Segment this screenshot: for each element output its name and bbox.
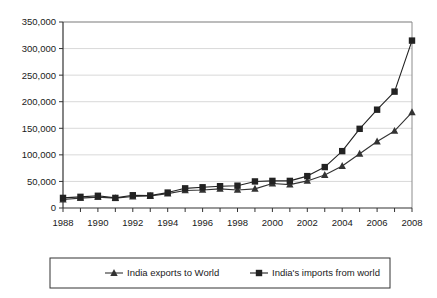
y-axis-tick-label: 150,000 (22, 123, 56, 134)
chart-legend: India exports to WorldIndia's imports fr… (50, 258, 390, 288)
y-axis-tick-label: 100,000 (22, 149, 56, 160)
x-axis-tick-label: 1994 (157, 217, 178, 228)
square-marker (234, 182, 240, 188)
square-marker (304, 173, 310, 179)
square-marker (165, 189, 171, 195)
square-marker (60, 195, 66, 201)
legend-label: India exports to World (127, 267, 219, 278)
y-axis-tick-label: 50,000 (27, 176, 56, 187)
y-axis-tick-label: 0 (51, 202, 56, 213)
square-marker (199, 184, 205, 190)
square-marker (112, 195, 118, 201)
square-marker (256, 270, 262, 276)
square-marker (130, 192, 136, 198)
square-marker (322, 164, 328, 170)
square-marker (77, 194, 83, 200)
square-marker (252, 178, 258, 184)
chart-background (0, 0, 437, 298)
square-marker (356, 126, 362, 132)
y-axis-tick-label: 200,000 (22, 96, 56, 107)
square-marker (391, 88, 397, 94)
square-marker (409, 37, 415, 43)
x-axis-tick-label: 2002 (297, 217, 318, 228)
y-axis-tick-label: 250,000 (22, 70, 56, 81)
x-axis-tick-label: 1990 (87, 217, 108, 228)
x-axis-tick-label: 1998 (227, 217, 248, 228)
square-marker (287, 178, 293, 184)
x-axis-tick-label: 2006 (367, 217, 388, 228)
legend-label: India's imports from world (272, 267, 380, 278)
x-axis-tick-label: 1988 (52, 217, 73, 228)
x-axis-tick-label: 1992 (122, 217, 143, 228)
y-axis-tick-label: 350,000 (22, 16, 56, 27)
y-axis-tick-label: 300,000 (22, 43, 56, 54)
square-marker (217, 183, 223, 189)
x-axis-tick-label: 2008 (401, 217, 422, 228)
x-axis-tick-label: 1996 (192, 217, 213, 228)
square-marker (374, 106, 380, 112)
square-marker (95, 193, 101, 199)
x-axis-tick-label: 2000 (262, 217, 283, 228)
square-marker (182, 185, 188, 191)
line-chart: 050,000100,000150,000200,000250,000300,0… (0, 0, 437, 298)
x-axis-ticks (63, 208, 412, 212)
square-marker (147, 192, 153, 198)
x-axis-tick-labels: 1988199019921994199619982000200220042006… (52, 217, 422, 228)
square-marker (339, 148, 345, 154)
chart-canvas: 050,000100,000150,000200,000250,000300,0… (0, 0, 437, 298)
x-axis-tick-label: 2004 (332, 217, 353, 228)
square-marker (269, 178, 275, 184)
